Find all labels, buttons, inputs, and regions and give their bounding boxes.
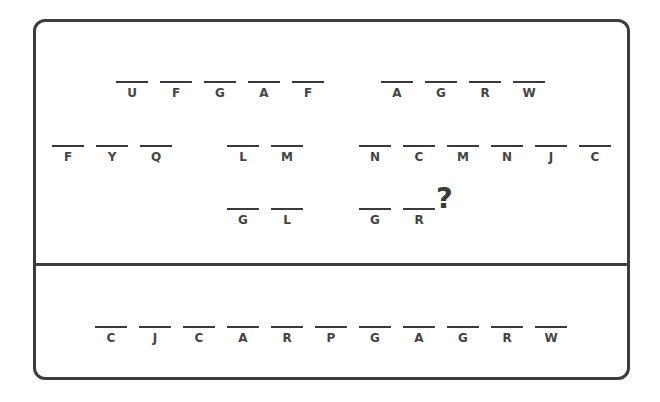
clue-letter: G [425, 86, 457, 100]
clue-slot: F [52, 145, 84, 169]
bank-slot[interactable]: W [535, 326, 567, 350]
clue-letter: A [248, 86, 280, 100]
underline [579, 145, 611, 147]
bank-letter[interactable]: A [227, 331, 259, 345]
underline [491, 326, 523, 328]
clue-slot: R [469, 81, 501, 105]
underline [52, 145, 84, 147]
bank-slot[interactable]: G [447, 326, 479, 350]
bank-letter[interactable]: R [491, 331, 523, 345]
underline [116, 81, 148, 83]
bank-letter[interactable]: W [535, 331, 567, 345]
clue-letter: W [513, 86, 545, 100]
clue-slot: A [248, 81, 280, 105]
clue-slot: A [381, 81, 413, 105]
underline [227, 145, 259, 147]
underline [248, 81, 280, 83]
clue-slot: Y [96, 145, 128, 169]
clue-slot: L [271, 208, 303, 232]
underline [469, 81, 501, 83]
underline [403, 208, 435, 210]
underline [359, 326, 391, 328]
underline [403, 145, 435, 147]
clue-letter: N [491, 150, 523, 164]
underline [292, 81, 324, 83]
underline [227, 326, 259, 328]
bank-letter[interactable]: J [139, 331, 171, 345]
clue-slot: U [116, 81, 148, 105]
clue-slot: C [579, 145, 611, 169]
clue-letter: L [227, 150, 259, 164]
clue-letter: G [204, 86, 236, 100]
bank-letter[interactable]: P [315, 331, 347, 345]
underline [359, 208, 391, 210]
underline [271, 326, 303, 328]
bank-slot[interactable]: J [139, 326, 171, 350]
clue-slot: M [271, 145, 303, 169]
clue-letter: L [271, 213, 303, 227]
bank-slot[interactable]: A [403, 326, 435, 350]
clue-slot: G [425, 81, 457, 105]
underline [204, 81, 236, 83]
underline [513, 81, 545, 83]
clue-letter: N [359, 150, 391, 164]
underline [315, 326, 347, 328]
clue-letter: Y [96, 150, 128, 164]
bank-letter[interactable]: R [271, 331, 303, 345]
clue-letter: C [403, 150, 435, 164]
bank-slot[interactable]: R [271, 326, 303, 350]
clue-letter: G [227, 213, 259, 227]
underline [381, 81, 413, 83]
clue-letter: Q [140, 150, 172, 164]
clue-letter: F [52, 150, 84, 164]
underline [535, 326, 567, 328]
clue-slot: Q [140, 145, 172, 169]
underline [535, 145, 567, 147]
clue-slot: M [447, 145, 479, 169]
clue-slot: N [359, 145, 391, 169]
bank-slot[interactable]: P [315, 326, 347, 350]
bank-slot[interactable]: R [491, 326, 523, 350]
clue-slot: G [227, 208, 259, 232]
clue-letter: A [381, 86, 413, 100]
underline [359, 145, 391, 147]
clue-letter: M [271, 150, 303, 164]
underline [96, 145, 128, 147]
clue-slot: N [491, 145, 523, 169]
clue-letter: J [535, 150, 567, 164]
clue-letter: U [116, 86, 148, 100]
bank-letter[interactable]: G [359, 331, 391, 345]
clue-slot: R [403, 208, 435, 232]
bank-letter[interactable]: G [447, 331, 479, 345]
clue-letter: R [469, 86, 501, 100]
underline [447, 326, 479, 328]
clue-letter: C [579, 150, 611, 164]
bank-slot[interactable]: G [359, 326, 391, 350]
clue-letter: M [447, 150, 479, 164]
clue-slot: F [292, 81, 324, 105]
clue-slot: C [403, 145, 435, 169]
clue-slot: W [513, 81, 545, 105]
underline [447, 145, 479, 147]
clue-slot: J [535, 145, 567, 169]
underline [95, 326, 127, 328]
bank-letter[interactable]: C [95, 331, 127, 345]
clue-slot: L [227, 145, 259, 169]
bank-letter[interactable]: A [403, 331, 435, 345]
clue-letter: F [160, 86, 192, 100]
underline [491, 145, 523, 147]
underline [139, 326, 171, 328]
panel-divider [33, 263, 630, 266]
underline [183, 326, 215, 328]
underline [160, 81, 192, 83]
underline [425, 81, 457, 83]
bank-letter[interactable]: C [183, 331, 215, 345]
bank-slot[interactable]: A [227, 326, 259, 350]
underline [140, 145, 172, 147]
clue-letter: R [403, 213, 435, 227]
bank-slot[interactable]: C [95, 326, 127, 350]
clue-letter: F [292, 86, 324, 100]
underline [271, 208, 303, 210]
underline [403, 326, 435, 328]
bank-slot[interactable]: C [183, 326, 215, 350]
